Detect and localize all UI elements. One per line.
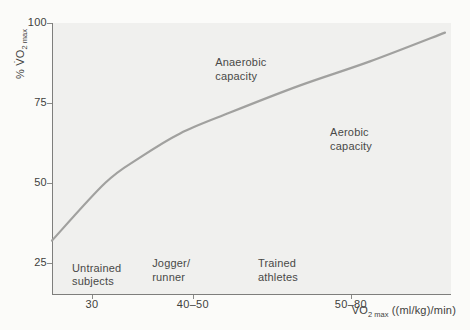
y-axis-label-symbol: % V̇O [14, 49, 26, 79]
y-tick-label: 100 [2, 16, 47, 28]
x-axis-label-subword: max [372, 310, 388, 319]
y-tick-label: 50 [2, 176, 47, 188]
annotation-aerobic: Aerobic capacity [330, 126, 372, 153]
annotation-trained: Trained athletes [258, 257, 298, 284]
annotation-anaerobic: Anaerobic capacity [215, 56, 266, 83]
x-tick-label: 30 [57, 298, 127, 310]
y-tick-mark [47, 263, 52, 264]
vo2max-capacity-chart: % V̇O2 max 100755025 3040–5050–80 Anaero… [0, 0, 470, 330]
x-tick-label: 40–50 [158, 298, 228, 310]
y-tick-label: 75 [2, 96, 47, 108]
y-tick-mark [47, 23, 52, 24]
x-axis-label-symbol: V̇O [352, 304, 368, 316]
annotation-untrained: Untrained subjects [72, 262, 122, 289]
y-tick-label: 25 [2, 256, 47, 268]
y-axis-label-subword: max [20, 29, 29, 45]
x-axis-label: V̇O2 max ((ml/kg)/min) [352, 304, 456, 319]
y-tick-mark [47, 103, 52, 104]
annotation-jogger-: Jogger/ runner [152, 257, 190, 284]
y-axis-label-subscript: 2 [20, 45, 29, 49]
x-axis-label-units: ((ml/kg)/min) [388, 304, 456, 316]
y-tick-mark [47, 183, 52, 184]
